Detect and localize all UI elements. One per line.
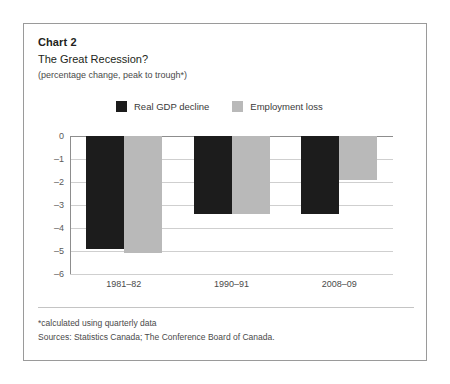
y-axis-tick-label: –3 [54, 200, 64, 210]
page-title: The Great Recession? [38, 53, 148, 65]
legend-label: Real GDP decline [134, 101, 209, 112]
bar-group [301, 136, 377, 274]
bar-employment-loss [232, 136, 270, 214]
chart-legend: Real GDP declineEmployment loss [116, 101, 323, 112]
bar-real-gdp-decline [86, 136, 124, 249]
legend-swatch-real-gdp-decline [116, 101, 127, 112]
footnote-note: *calculated using quarterly data [38, 318, 157, 328]
bar-employment-loss [124, 136, 162, 253]
legend-item: Real GDP decline [116, 101, 209, 112]
chart-subtitle: (percentage change, peak to trough*) [38, 70, 187, 80]
chart-frame: Chart 2 The Great Recession? (percentage… [23, 23, 427, 361]
bar-group [194, 136, 270, 274]
legend-swatch-employment-loss [232, 101, 243, 112]
bars-layer [70, 136, 393, 274]
plot-area: 0–1–2–3–4–5–6 1981–821990–912008–09 [70, 136, 393, 274]
footnote-sources: Sources: Statistics Canada; The Conferen… [38, 332, 275, 342]
y-axis-tick-label: –4 [54, 223, 64, 233]
y-axis-tick-label: –5 [54, 246, 64, 256]
legend-item: Employment loss [232, 101, 322, 112]
x-axis-tick-label: 1981–82 [106, 279, 141, 289]
x-axis-tick-label: 1990–91 [214, 279, 249, 289]
legend-label: Employment loss [250, 101, 322, 112]
chart-page: Chart 2 The Great Recession? (percentage… [0, 0, 450, 384]
bar-group [86, 136, 162, 274]
x-axis-tick-label: 2008–09 [322, 279, 357, 289]
y-axis-tick-label: –1 [54, 154, 64, 164]
y-axis-tick-label: 0 [59, 131, 64, 141]
y-axis-tick-label: –6 [54, 269, 64, 279]
y-axis-tick-label: –2 [54, 177, 64, 187]
bar-employment-loss [339, 136, 377, 180]
chart-number: Chart 2 [38, 36, 77, 48]
footnote-divider [38, 307, 414, 308]
bar-real-gdp-decline [194, 136, 232, 214]
gridline: –6 [70, 274, 393, 275]
bar-real-gdp-decline [301, 136, 339, 214]
